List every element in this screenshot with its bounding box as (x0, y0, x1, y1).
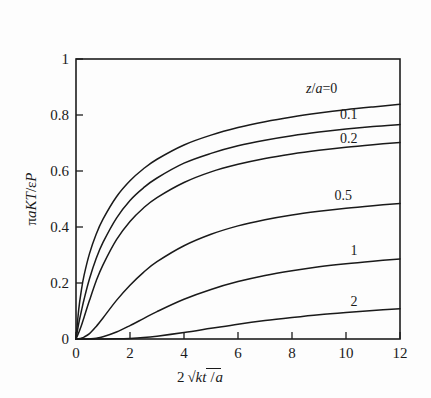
curve-label-5: 2 (351, 294, 358, 309)
y-tick-label: 0.8 (50, 107, 69, 123)
y-tick-label: 0 (62, 331, 70, 347)
x-tick-label: 8 (288, 345, 296, 361)
y-tick-label: 1 (62, 51, 70, 67)
curve-label-4: 1 (351, 243, 358, 258)
svg-text:πaKT/εP: πaKT/εP (23, 172, 39, 225)
x-tick-label: 0 (72, 345, 80, 361)
x-tick-label: 2 (126, 345, 134, 361)
x-tick-label: 12 (393, 345, 408, 361)
curve-labels: z/a=00.10.20.512 (305, 81, 358, 309)
chart-plot: 024681012 00.20.40.60.81 z/a=00.10.20.51… (0, 0, 431, 398)
y-axis-tick-labels: 00.20.40.60.81 (50, 51, 69, 347)
curve-label-1: 0.1 (340, 107, 358, 122)
figure-container: 024681012 00.20.40.60.81 z/a=00.10.20.51… (0, 0, 431, 398)
y-tick-label: 0.4 (50, 219, 69, 235)
y-tick-label: 0.2 (50, 275, 69, 291)
x-tick-label: 10 (339, 345, 354, 361)
x-tick-label: 6 (234, 345, 242, 361)
x-tick-label: 4 (180, 345, 188, 361)
curve-label-2: 0.2 (340, 131, 358, 146)
curve-label-0: z/a=0 (305, 81, 337, 96)
curve-2 (76, 142, 400, 339)
curve-label-3: 0.5 (335, 188, 353, 203)
x-axis-tick-labels: 024681012 (72, 345, 407, 361)
y-axis-ticks (76, 59, 83, 339)
y-axis-title: πaKT/εP (23, 172, 39, 225)
y-tick-label: 0.6 (50, 163, 69, 179)
svg-text:2√kt/a: 2√kt/a (177, 369, 223, 385)
curve-3 (76, 203, 400, 339)
x-axis-title: 2√kt/a (177, 369, 223, 386)
